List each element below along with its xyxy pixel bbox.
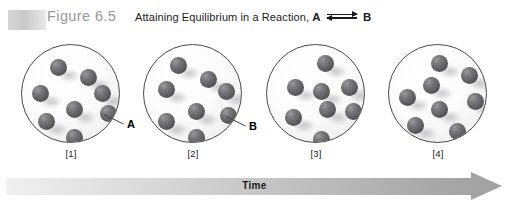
molecule-sphere <box>467 93 484 110</box>
molecule-sphere <box>158 81 175 98</box>
figure-title: Attaining Equilibrium in a Reaction, A B <box>135 11 371 23</box>
equilibrium-double-arrow-icon <box>327 11 357 22</box>
figure-number: Figure 6.5 <box>47 8 116 24</box>
molecule-sphere <box>313 83 330 100</box>
panel-index-4: [4] <box>375 148 501 159</box>
panel-index-3: [3] <box>253 148 379 159</box>
reaction-panel-1: A [1] <box>8 36 134 162</box>
time-axis-label: Time <box>0 180 509 191</box>
reaction-vessel-4 <box>388 44 487 143</box>
molecule-sphere <box>345 103 362 120</box>
molecule-sphere <box>317 55 334 72</box>
header-color-swatch <box>8 10 46 30</box>
molecule-sphere <box>158 113 175 130</box>
molecule-sphere <box>319 101 336 118</box>
reaction-vessel-3 <box>266 44 365 143</box>
reaction-panel-4: [4] <box>375 36 501 162</box>
reaction-panel-2: B [2] <box>130 36 256 162</box>
molecule-sphere <box>313 131 330 143</box>
molecule-sphere <box>38 113 55 130</box>
species-label-b: B <box>363 11 371 23</box>
molecule-sphere <box>200 71 217 88</box>
molecule-sphere <box>170 57 187 74</box>
species-label-a: A <box>312 11 320 23</box>
molecule-sphere <box>32 85 49 102</box>
time-axis: Time <box>0 172 509 202</box>
molecule-sphere <box>218 83 235 100</box>
molecule-sphere <box>80 69 97 86</box>
molecule-sphere <box>50 59 67 76</box>
figure-title-text: Attaining Equilibrium in a Reaction, <box>135 11 309 23</box>
molecule-sphere <box>431 55 448 72</box>
molecule-sphere <box>285 109 302 126</box>
reaction-vessel-panels: A [1] B [2] <box>0 36 509 162</box>
molecule-sphere <box>287 79 304 96</box>
molecule-sphere <box>188 103 205 120</box>
reaction-vessel-1 <box>21 44 120 143</box>
molecule-sphere <box>461 67 478 84</box>
reaction-vessel-2 <box>143 44 242 143</box>
molecule-sphere <box>449 123 466 140</box>
molecule-sphere <box>431 101 448 118</box>
figure-header: Figure 6.5 Attaining Equilibrium in a Re… <box>0 0 509 36</box>
molecule-sphere <box>341 79 358 96</box>
panel-index-2: [2] <box>130 148 256 159</box>
molecule-sphere <box>94 85 111 102</box>
molecule-sphere <box>423 77 440 94</box>
molecule-sphere <box>188 129 205 143</box>
reaction-panel-3: [3] <box>253 36 379 162</box>
molecule-sphere <box>66 101 83 118</box>
panel-index-1: [1] <box>8 148 134 159</box>
molecule-sphere <box>66 129 83 143</box>
molecule-sphere <box>407 117 424 134</box>
molecule-sphere <box>399 89 416 106</box>
